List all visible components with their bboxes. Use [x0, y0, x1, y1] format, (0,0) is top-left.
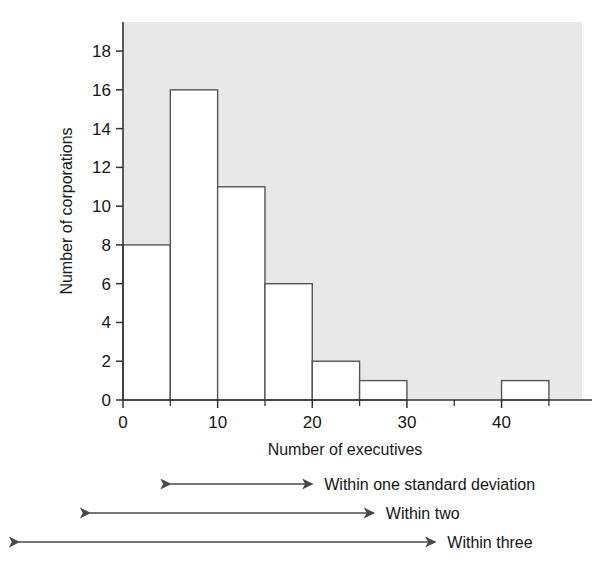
y-axis-tick-labels: 024681012141618: [92, 42, 111, 410]
range-arrow-label: Within three: [447, 534, 532, 551]
y-tick-label: 16: [92, 81, 111, 100]
x-axis-title: Number of executives: [268, 441, 423, 458]
y-axis-title: Number of corporations: [58, 127, 75, 294]
x-tick-label: 10: [208, 413, 227, 432]
histogram-bar: [312, 361, 359, 400]
annotation-arrows-group: Within one standard deviationWithin twoW…: [19, 476, 535, 551]
histogram-chart: 024681012141618 010203040 Number of corp…: [0, 0, 601, 576]
y-tick-label: 12: [92, 158, 111, 177]
x-axis-ticks: [123, 400, 549, 408]
y-tick-label: 8: [102, 236, 111, 255]
x-axis-tick-labels: 010203040: [118, 413, 511, 432]
y-tick-label: 0: [102, 391, 111, 410]
y-tick-label: 2: [102, 352, 111, 371]
histogram-bar: [170, 90, 217, 400]
x-tick-label: 40: [492, 413, 511, 432]
y-tick-label: 18: [92, 42, 111, 61]
x-tick-label: 20: [303, 413, 322, 432]
histogram-bar: [360, 381, 407, 400]
histogram-bar: [265, 284, 312, 400]
y-tick-label: 10: [92, 197, 111, 216]
histogram-bar: [123, 245, 170, 400]
y-tick-label: 6: [102, 275, 111, 294]
y-axis-ticks: [116, 51, 123, 400]
x-tick-label: 0: [118, 413, 127, 432]
range-arrow-label: Within two: [386, 505, 460, 522]
range-arrow-label: Within one standard deviation: [324, 476, 535, 493]
histogram-bar: [218, 187, 265, 400]
y-tick-label: 4: [102, 313, 111, 332]
y-tick-label: 14: [92, 120, 111, 139]
histogram-bar: [502, 381, 549, 400]
x-tick-label: 30: [397, 413, 416, 432]
histogram-figure: 024681012141618 010203040 Number of corp…: [0, 0, 601, 576]
